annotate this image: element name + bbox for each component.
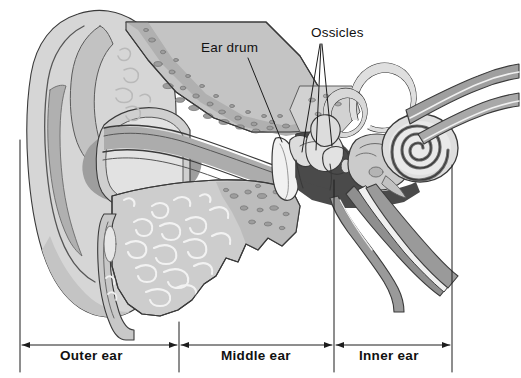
ear-diagram-figure: Ear drum Ossicles Outer ear Middle ear I…: [0, 0, 521, 378]
label-ossicles: Ossicles: [311, 25, 364, 40]
auditory-nerve-upper: [406, 64, 519, 144]
mastoid-bone-lower: [112, 180, 300, 316]
section-label-outer-ear: Outer ear: [60, 348, 123, 363]
ear-anatomy-illustration: [0, 0, 521, 378]
section-label-inner-ear: Inner ear: [359, 348, 419, 363]
section-label-middle-ear: Middle ear: [221, 348, 291, 363]
label-ear-drum: Ear drum: [201, 40, 258, 55]
